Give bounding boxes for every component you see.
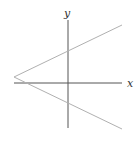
y-axis-label: y [63, 7, 71, 20]
x-axis-label: x [127, 77, 134, 90]
coordinate-graph: y x [0, 0, 139, 146]
